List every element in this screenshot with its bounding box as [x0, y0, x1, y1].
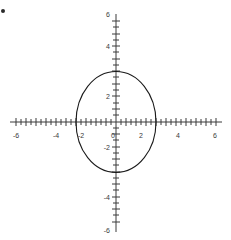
x-tick-label-0: 0 — [111, 132, 115, 139]
y-tick-label--6: -6 — [104, 227, 110, 234]
x-tick-label-4: 4 — [176, 132, 180, 139]
y-tick-label--2: -2 — [104, 144, 110, 151]
y-tick-label-6: 6 — [106, 11, 110, 18]
y-tick-label-2: 2 — [106, 93, 110, 100]
y-tick-label--4: -4 — [104, 194, 110, 201]
x-tick-label--6: -6 — [13, 132, 19, 139]
x-tick-label--2: -2 — [78, 132, 84, 139]
chart-canvas: -6 -4 -2 0 2 4 6 6 4 2 -2 -4 -6 — [0, 0, 231, 240]
x-tick-label-6: 6 — [213, 132, 217, 139]
coordinate-plane-plot: -6 -4 -2 0 2 4 6 6 4 2 -2 -4 -6 — [0, 0, 231, 240]
x-tick-label--4: -4 — [53, 132, 59, 139]
x-tick-label-2: 2 — [139, 132, 143, 139]
y-tick-label-4: 4 — [106, 43, 110, 50]
